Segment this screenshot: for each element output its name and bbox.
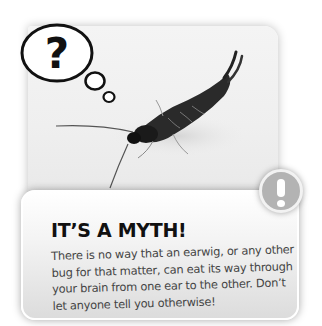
thought-bubble-icon: ? — [0, 0, 130, 110]
myth-body: There is no way that an earwig, or any o… — [51, 241, 298, 314]
myth-title: IT’S A MYTH! — [51, 219, 186, 241]
myth-card: IT’S A MYTH! There is no way that an ear… — [21, 190, 299, 320]
exclamation-icon — [259, 169, 303, 213]
question-mark-icon: ? — [45, 29, 69, 78]
